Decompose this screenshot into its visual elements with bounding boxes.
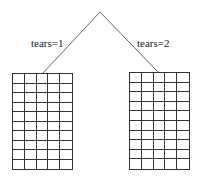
grid-cell <box>60 150 72 160</box>
grid-cell <box>13 93 25 103</box>
grid-cell <box>37 103 49 113</box>
grid-cell <box>60 103 72 113</box>
grid-cell <box>13 112 25 122</box>
leaf-grid-left <box>12 73 73 170</box>
grid-cell <box>60 93 72 103</box>
grid-cell <box>165 73 177 83</box>
grid-cell <box>154 102 166 112</box>
grid-cell <box>177 102 189 112</box>
grid-cell <box>25 74 37 84</box>
grid-cell <box>13 141 25 151</box>
grid-cell <box>60 84 72 94</box>
grid-cell <box>13 74 25 84</box>
grid-cell <box>142 83 154 93</box>
grid-cell <box>130 92 142 102</box>
grid-cell <box>154 73 166 83</box>
grid-cell <box>154 159 166 169</box>
grid-cell <box>177 111 189 121</box>
grid-cell <box>48 160 60 170</box>
grid-cell <box>13 122 25 132</box>
grid-cell <box>142 111 154 121</box>
grid-cell <box>177 159 189 169</box>
grid-cell <box>177 92 189 102</box>
grid-cell <box>142 131 154 141</box>
grid-cell <box>130 73 142 83</box>
grid-cell <box>37 150 49 160</box>
grid-cell <box>165 150 177 160</box>
grid-cell <box>48 112 60 122</box>
grid-cell <box>154 92 166 102</box>
branch-label-right: tears=2 <box>137 38 169 49</box>
grid-cell <box>142 150 154 160</box>
grid-cell <box>60 131 72 141</box>
grid-cell <box>25 141 37 151</box>
grid-cell <box>165 131 177 141</box>
grid-cell <box>142 159 154 169</box>
grid-cell <box>25 160 37 170</box>
grid-cell <box>13 150 25 160</box>
grid-cell <box>37 74 49 84</box>
grid-cell <box>142 73 154 83</box>
grid-cell <box>37 141 49 151</box>
grid-cell <box>48 150 60 160</box>
grid-cell <box>60 160 72 170</box>
grid-cell <box>130 83 142 93</box>
grid-cell <box>165 111 177 121</box>
grid-cell <box>177 140 189 150</box>
grid-cell <box>177 150 189 160</box>
grid-cell <box>154 111 166 121</box>
grid-cell <box>37 84 49 94</box>
grid-cell <box>25 84 37 94</box>
grid-cell <box>60 122 72 132</box>
grid-cell <box>25 131 37 141</box>
grid-cell <box>48 141 60 151</box>
grid-cell <box>154 150 166 160</box>
grid-cell <box>154 121 166 131</box>
grid-cell <box>130 159 142 169</box>
grid-cell <box>13 84 25 94</box>
grid-cell <box>165 83 177 93</box>
grid-cell <box>165 159 177 169</box>
grid-cell <box>130 111 142 121</box>
grid-cell <box>25 103 37 113</box>
grid-cell <box>130 150 142 160</box>
grid-cell <box>37 93 49 103</box>
grid-cell <box>154 83 166 93</box>
grid-cell <box>25 122 37 132</box>
grid-cell <box>130 121 142 131</box>
grid-cell <box>130 140 142 150</box>
grid-cell <box>25 150 37 160</box>
grid-cell <box>60 141 72 151</box>
grid-cell <box>13 131 25 141</box>
grid-cell <box>142 92 154 102</box>
grid-cell <box>60 112 72 122</box>
grid-cell <box>165 121 177 131</box>
grid-cell <box>37 122 49 132</box>
grid-cell <box>25 112 37 122</box>
grid-cell <box>37 160 49 170</box>
grid-cell <box>177 121 189 131</box>
grid-cell <box>177 131 189 141</box>
grid-cell <box>165 140 177 150</box>
branch-label-left: tears=1 <box>31 38 63 49</box>
grid-cell <box>13 103 25 113</box>
grid-cell <box>48 122 60 132</box>
grid-cell <box>13 160 25 170</box>
grid-cell <box>142 140 154 150</box>
grid-cell <box>48 131 60 141</box>
grid-cell <box>130 131 142 141</box>
grid-cell <box>25 93 37 103</box>
grid-cell <box>165 102 177 112</box>
grid-cell <box>37 131 49 141</box>
grid-cell <box>177 73 189 83</box>
grid-cell <box>142 102 154 112</box>
grid-cell <box>165 92 177 102</box>
grid-cell <box>48 93 60 103</box>
grid-cell <box>130 102 142 112</box>
grid-cell <box>142 121 154 131</box>
grid-cell <box>177 83 189 93</box>
grid-cell <box>48 103 60 113</box>
grid-cell <box>48 74 60 84</box>
leaf-grid-right <box>129 72 190 170</box>
grid-cell <box>37 112 49 122</box>
